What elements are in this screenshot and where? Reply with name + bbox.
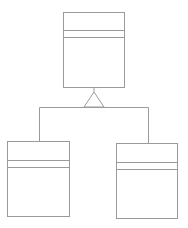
- class-box-child-left[interactable]: [8, 142, 70, 217]
- class-outline: [8, 142, 70, 217]
- class-box-parent[interactable]: [64, 13, 125, 88]
- inheritance-triangle-icon: [84, 92, 104, 107]
- class-outline: [64, 13, 125, 88]
- class-box-child-right[interactable]: [117, 144, 178, 219]
- generalization-connector: [40, 88, 149, 144]
- class-outline: [117, 144, 178, 219]
- uml-diagram: [0, 0, 188, 228]
